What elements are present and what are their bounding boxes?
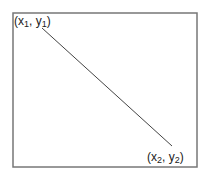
start-point-label: (x1, y1) [14,15,51,29]
end-point-label: (x2, y2) [147,151,184,165]
diagonal-line [42,28,172,146]
